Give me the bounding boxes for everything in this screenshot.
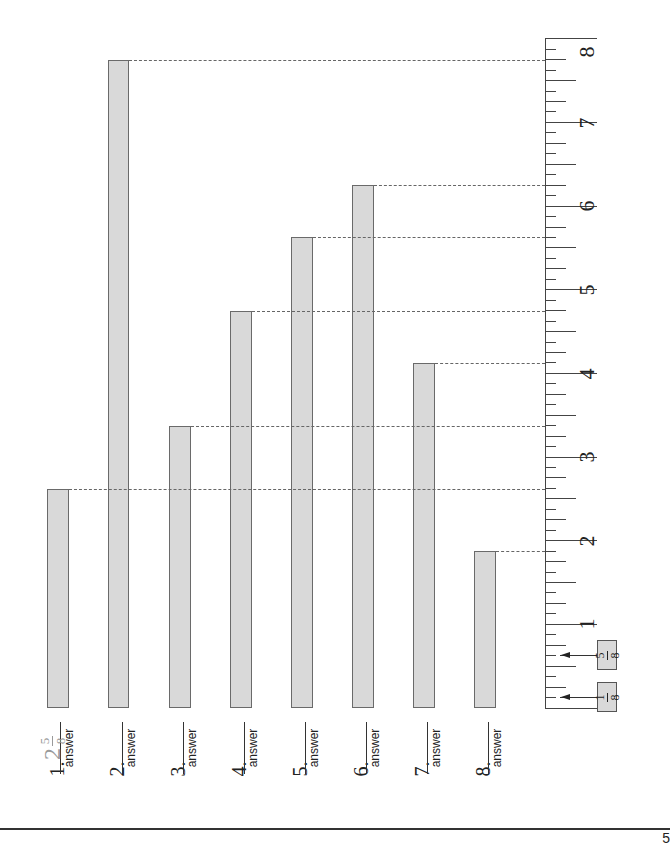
callout-tag-1-8: 1 8 [597,682,617,712]
ruler-tick [545,59,566,60]
ruler-tick [545,174,556,175]
ruler-label-4: 4 [575,362,599,386]
ruler-tick [545,530,556,531]
ruler-tick [545,645,566,646]
ruler-tick [545,687,566,688]
bar-7 [413,363,435,708]
ruler-tick [545,185,566,186]
ruler-label-6: 6 [575,194,599,218]
ruler-tick [545,592,556,593]
answer-label-7: answer [429,723,443,773]
ruler-tick [545,342,556,343]
bar-4 [230,311,252,708]
ruler-label-1: 1 [575,612,599,636]
ruler-tick [545,415,576,416]
ruler-tick [545,708,597,709]
ruler-label-5: 5 [575,278,599,302]
example-numerator: 5 [38,738,51,745]
ruler-tick [545,362,556,363]
callout-numerator: 5 [594,652,606,658]
ruler-tick [545,195,556,196]
answer-blank-6[interactable] [366,722,367,774]
answer-label-4: answer [246,723,260,773]
callout-denominator: 8 [609,652,621,658]
guide-line-8 [496,551,545,552]
ruler-tick [545,38,597,39]
ruler-tick [545,404,556,405]
example-answer: 2 5 8 [37,723,67,773]
ruler-tick [545,227,566,228]
ruler-tick [545,383,556,384]
ruler-tick [545,247,576,248]
ruler-tick [545,561,566,562]
ruler-tick [545,498,576,499]
answer-blank-2[interactable] [122,722,123,774]
ruler-tick [545,352,566,353]
bar-5 [291,237,313,708]
page-number: 5 [662,832,670,844]
guide-line-4 [252,311,545,312]
example-whole: 2 [39,748,66,760]
ruler-tick [545,394,566,395]
guide-line-3 [191,426,545,427]
ruler-tick [545,697,556,698]
ruler-tick [545,634,556,635]
answer-label-6: answer [368,723,382,773]
answer-label-3: answer [185,723,199,773]
ruler-tick [545,321,556,322]
ruler-label-3: 3 [575,445,599,469]
answer-blank-3[interactable] [183,722,184,774]
ruler-tick [545,216,556,217]
ruler-tick [545,655,556,656]
answer-blank-7[interactable] [427,722,428,774]
ruler-tick [545,300,556,301]
ruler-tick [545,153,556,154]
callout-tag-5-8: 5 8 [597,640,617,670]
ruler-tick [545,70,556,71]
ruler-tick [545,666,576,667]
ruler-tick [545,676,556,677]
bar-1 [47,489,69,708]
example-denominator: 8 [54,738,67,745]
ruler-tick [545,519,566,520]
ruler-tick [545,603,566,604]
guide-line-1 [69,489,545,490]
footer-divider [0,828,670,830]
ruler-tick [545,572,556,573]
ruler-tick [545,101,566,102]
ruler-tick [545,446,556,447]
answer-blank-5[interactable] [305,722,306,774]
guide-line-5 [313,237,545,238]
ruler-tick [545,132,556,133]
arrow-left-icon [561,652,570,658]
ruler-tick [545,164,576,165]
ruler-tick [545,425,556,426]
answer-label-2: answer [124,723,138,773]
callout-numerator: 1 [594,694,606,700]
ruler-tick [545,477,566,478]
ruler-tick [545,80,576,81]
ruler-tick [545,509,556,510]
answer-blank-8[interactable] [488,722,489,774]
ruler-tick [545,331,576,332]
ruler-tick [545,310,566,311]
arrow-left-icon [561,694,570,700]
ruler-tick [545,268,566,269]
answer-label-5: answer [307,723,321,773]
answer-blank-4[interactable] [244,722,245,774]
ruler-tick [545,91,556,92]
answer-label-8: answer [490,723,504,773]
guide-line-7 [435,363,545,364]
ruler-tick [545,436,566,437]
bar-2 [108,60,129,708]
ruler-tick [545,258,556,259]
ruler-tick [545,143,566,144]
guide-line-6 [374,185,545,186]
ruler-label-2: 2 [575,529,599,553]
ruler-label-7: 7 [575,111,599,135]
ruler-tick [545,551,556,552]
bar-8 [474,551,496,708]
ruler-label-8: 8 [575,40,599,64]
ruler-tick [545,279,556,280]
ruler-tick [545,49,556,50]
